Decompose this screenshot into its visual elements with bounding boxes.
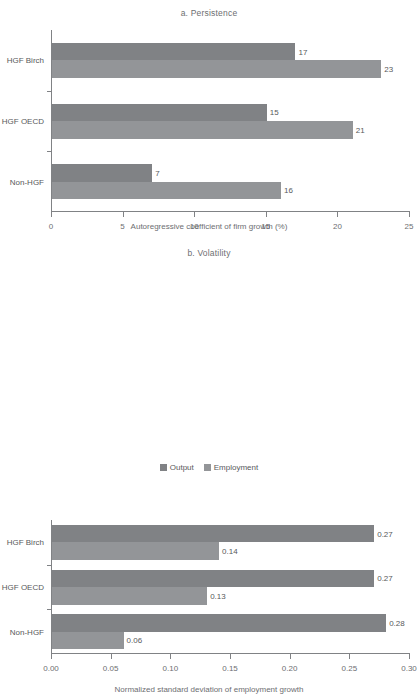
x-axis-tick-label: 0.00 [31, 664, 71, 673]
panel-b-x-axis-title: Normalized standard deviation of employm… [0, 685, 418, 694]
bar-value-label: 0.13 [210, 591, 226, 600]
panel-b-title: b. Volatility [0, 248, 418, 258]
x-axis-tick [290, 654, 291, 659]
bar-output-hgf-oecd [52, 104, 267, 122]
x-axis-tick-label: 0.30 [389, 664, 418, 673]
y-axis-category-label: HGF OECD [0, 583, 44, 592]
bar-employment-hgf-oecd [52, 587, 207, 605]
x-axis-tick [349, 654, 350, 659]
bar-value-label: 16 [284, 186, 293, 195]
x-axis-tick [51, 654, 52, 659]
legend-item-employment: Employment [204, 463, 258, 472]
y-axis-tick [47, 151, 51, 152]
x-axis-tick [337, 212, 338, 217]
legend-swatch-icon [204, 464, 211, 471]
legend-item-output: Output [160, 463, 194, 472]
y-axis-category-label: HGF Birch [0, 538, 44, 547]
panel-a-title: a. Persistence [0, 8, 418, 18]
x-axis-tick [230, 654, 231, 659]
panel-a-plot-area: 0510152025HGF Birch1723HGF OECD1521Non-H… [51, 30, 409, 212]
panel-a-x-axis-line [51, 211, 410, 212]
x-axis-tick [51, 212, 52, 217]
x-axis-tick-label: 0.25 [329, 664, 369, 673]
bar-value-label: 0.27 [377, 574, 393, 583]
legend-swatch-icon [160, 464, 167, 471]
bar-output-non-hgf [52, 164, 152, 182]
bar-value-label: 17 [298, 47, 307, 56]
chart-panel-persistence: a. Persistence 0510152025HGF Birch1723HG… [0, 0, 418, 242]
bar-value-label: 7 [155, 168, 159, 177]
y-axis-category-label: HGF Birch [0, 56, 44, 65]
bar-output-non-hgf [52, 614, 386, 632]
bar-output-hgf-oecd [52, 570, 374, 588]
bar-output-hgf-birch [52, 525, 374, 543]
x-axis-tick [170, 654, 171, 659]
chart-legend: OutputEmployment [0, 463, 418, 472]
y-axis-category-label: HGF OECD [0, 117, 44, 126]
bar-value-label: 0.27 [377, 529, 393, 538]
x-axis-tick [266, 212, 267, 217]
bar-value-label: 23 [384, 65, 393, 74]
x-axis-tick-label: 0.20 [270, 664, 310, 673]
y-axis-tick [47, 609, 51, 610]
y-axis-category-label: Non-HGF [0, 177, 44, 186]
panel-b-plot-area: 0.000.050.100.150.200.250.30HGF Birch0.2… [51, 520, 409, 654]
y-axis-category-label: Non-HGF [0, 627, 44, 636]
y-axis-tick [47, 91, 51, 92]
bar-value-label: 21 [356, 125, 365, 134]
x-axis-tick-label: 0.15 [210, 664, 250, 673]
bar-value-label: 0.06 [127, 636, 143, 645]
bar-employment-non-hgf [52, 632, 124, 650]
bar-employment-hgf-birch [52, 542, 219, 560]
y-axis-tick [47, 565, 51, 566]
panel-a-x-axis-title: Autoregressive coefficient of firm growt… [0, 222, 418, 231]
x-axis-tick [409, 654, 410, 659]
x-axis-tick [194, 212, 195, 217]
bar-employment-hgf-oecd [52, 121, 353, 139]
bar-value-label: 0.14 [222, 547, 238, 556]
bar-output-hgf-birch [52, 43, 295, 61]
x-axis-tick-label: 0.05 [91, 664, 131, 673]
legend-label: Employment [214, 463, 258, 472]
chart-panel-volatility: b. Volatility 0.000.050.100.150.200.250.… [0, 242, 418, 484]
bar-employment-non-hgf [52, 182, 281, 200]
x-axis-tick [409, 212, 410, 217]
bar-value-label: 0.28 [389, 618, 405, 627]
x-axis-tick-label: 0.10 [150, 664, 190, 673]
x-axis-tick [123, 212, 124, 217]
bar-employment-hgf-birch [52, 60, 381, 78]
legend-label: Output [170, 463, 194, 472]
x-axis-tick [111, 654, 112, 659]
bar-value-label: 15 [270, 108, 279, 117]
